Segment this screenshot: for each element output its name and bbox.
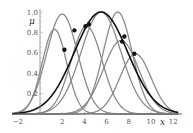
x-axis-label: x [160,117,165,127]
y-tick-label: 0.2 [27,90,38,98]
y-tick-label: 0.6 [27,49,39,57]
x-tick-label: 10 [147,118,156,126]
data-point [72,28,76,32]
data-point [87,22,91,26]
data-point [120,39,124,43]
data-point [62,48,66,52]
curve-aggregate [12,12,178,114]
x-tick-label: 8 [127,118,131,126]
x-tick-label: −2 [13,118,23,126]
data-point [132,52,136,56]
axes-layer [12,9,182,114]
x-tick-label: 2 [60,118,64,126]
y-tick-label: 0.8 [27,29,38,37]
x-tick-label: 12 [169,118,178,126]
data-point [122,34,126,38]
curves-layer [12,12,178,114]
x-tick-label: 4 [82,118,87,126]
x-tick-label: 6 [104,118,109,126]
membership-function-chart: −2246810120.20.40.60.81.0 x μ [0,0,193,133]
y-axis-label: μ [29,16,35,26]
y-tick-label: 0.4 [27,70,39,78]
